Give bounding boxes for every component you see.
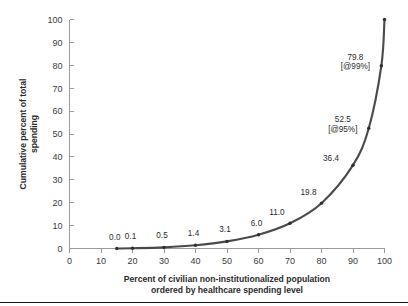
data-point-value-label: 6.0 — [251, 219, 263, 228]
y-tick-label: 70 — [52, 84, 62, 94]
x-axis-title-line1: Percent of civilian non-institutionalize… — [124, 274, 330, 284]
data-marker — [162, 246, 165, 249]
y-tick-label: 80 — [52, 61, 62, 71]
y-tick-label: 10 — [52, 221, 62, 231]
x-tick-label: 10 — [96, 256, 106, 266]
y-tick-label: 0 — [57, 244, 62, 254]
footer-divider — [0, 302, 408, 303]
data-point-value-label: 0.1 — [125, 232, 137, 241]
data-marker — [257, 233, 260, 236]
data-point-percentile-label: [@99%] — [341, 62, 370, 71]
y-tick-label: 100 — [47, 15, 62, 25]
x-tick-label: 90 — [348, 256, 358, 266]
spending-curve — [117, 20, 385, 249]
data-marker — [320, 201, 323, 204]
data-marker — [115, 247, 118, 250]
data-marker — [194, 244, 197, 247]
data-marker — [131, 247, 134, 250]
data-point-markers — [115, 18, 386, 250]
data-point-value-label: 11.0 — [269, 208, 285, 217]
data-point-labels: 0.00.10.51.43.16.011.019.836.452.5[@95%]… — [109, 53, 370, 242]
data-point-percentile-label: [@95%] — [328, 125, 357, 134]
x-axis-tick-labels: 0102030405060708090100 — [67, 256, 392, 266]
y-tick-label: 60 — [52, 106, 62, 116]
data-point-value-label: 19.8 — [301, 188, 317, 197]
data-point-value-label: 0.0 — [109, 233, 121, 242]
x-tick-label: 60 — [253, 256, 263, 266]
x-tick-label: 40 — [190, 256, 200, 266]
y-tick-label: 20 — [52, 198, 62, 208]
data-marker — [383, 18, 386, 21]
x-tick-label: 100 — [377, 256, 392, 266]
y-axis-tick-labels: 0102030405060708090100 — [47, 15, 62, 254]
data-marker — [367, 127, 370, 130]
y-tick-label: 40 — [52, 152, 62, 162]
y-tick-label: 30 — [52, 175, 62, 185]
data-point-value-label: 36.4 — [323, 154, 339, 163]
x-tick-label: 70 — [285, 256, 295, 266]
data-point-value-label: 79.8 — [347, 53, 363, 62]
x-tick-label: 20 — [127, 256, 137, 266]
x-tick-label: 50 — [222, 256, 232, 266]
data-point-value-label: 0.5 — [156, 231, 168, 240]
data-marker — [351, 163, 354, 166]
y-tick-label: 50 — [52, 129, 62, 139]
y-axis-title-line2: spending — [29, 115, 39, 153]
data-marker — [225, 240, 228, 243]
data-marker — [288, 222, 291, 225]
data-point-value-label: 1.4 — [188, 229, 200, 238]
data-point-value-label: 52.5 — [335, 115, 351, 124]
data-point-value-label: 3.1 — [219, 225, 231, 234]
y-axis-title-line1: Cumulative percent of total — [18, 79, 28, 190]
y-axis-tick-group — [70, 20, 74, 249]
x-tick-label: 80 — [316, 256, 326, 266]
y-tick-label: 90 — [52, 38, 62, 48]
chart-figure: 0102030405060708090100 01020304050607080… — [0, 0, 408, 306]
x-tick-label: 0 — [67, 256, 72, 266]
cumulative-spending-line-chart: 0102030405060708090100 01020304050607080… — [0, 0, 408, 306]
x-axis-title-line2: ordered by healthcare spending level — [151, 285, 303, 295]
x-tick-label: 30 — [159, 256, 169, 266]
data-marker — [380, 64, 383, 67]
